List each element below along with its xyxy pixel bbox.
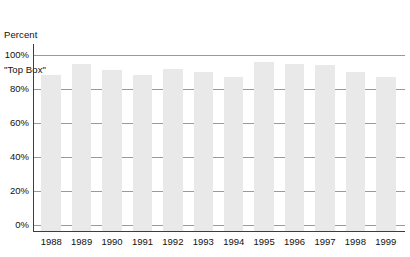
x-axis-tick-label: 1990 [97, 236, 127, 248]
x-axis-line [33, 231, 405, 232]
x-axis-tick-label: 1992 [158, 236, 188, 248]
bar-series [34, 0, 405, 231]
x-axis-tick-label: 1997 [310, 236, 340, 248]
bar-1988 [41, 75, 60, 231]
bar-chart: Percent "Top Box" 0%20%40%60%80%100% 198… [0, 0, 410, 257]
x-axis-tick-label: 1998 [340, 236, 370, 248]
x-axis-tick-label: 1996 [279, 236, 309, 248]
x-axis-tick-label: 1995 [249, 236, 279, 248]
x-axis-tick-label: 1999 [371, 236, 401, 248]
bar-1992 [163, 69, 182, 231]
bar-1995 [254, 62, 273, 231]
y-axis-tick-label: 100% [5, 50, 29, 60]
x-axis-tick-label: 1993 [188, 236, 218, 248]
y-axis-tick-label: 60% [10, 118, 29, 128]
bar-1998 [346, 72, 365, 231]
x-axis-tick-label: 1991 [127, 236, 157, 248]
bar-1999 [376, 77, 395, 231]
x-axis-tick-labels: 1988198919901991199219931994199519961997… [34, 236, 405, 252]
bar-1989 [72, 64, 91, 232]
y-axis-tick-label: 0% [15, 220, 29, 230]
x-axis-tick-label: 1988 [36, 236, 66, 248]
bar-1990 [102, 70, 121, 231]
bar-1994 [224, 77, 243, 231]
y-axis-tick-label: 20% [10, 186, 29, 196]
bar-1991 [133, 75, 152, 231]
x-axis-tick-label: 1994 [219, 236, 249, 248]
bar-1997 [315, 65, 334, 231]
bar-1993 [194, 72, 213, 231]
y-axis-tick-label: 80% [10, 84, 29, 94]
y-axis-tick-label: 40% [10, 152, 29, 162]
x-axis-tick-label: 1989 [66, 236, 96, 248]
bar-1996 [285, 64, 304, 232]
